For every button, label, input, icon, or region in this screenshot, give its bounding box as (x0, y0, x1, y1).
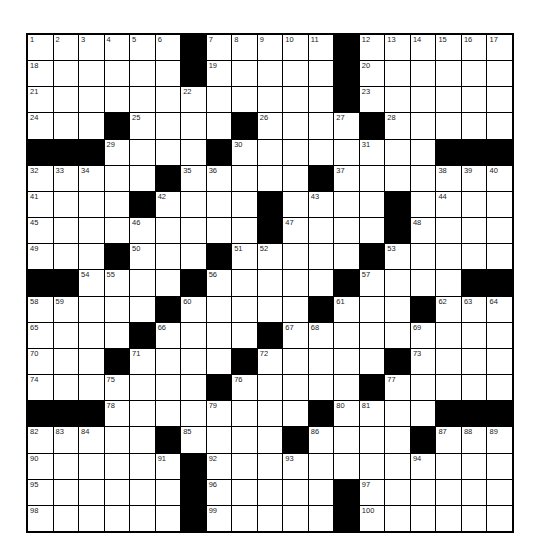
crossword-cell[interactable] (232, 297, 257, 322)
crossword-cell[interactable]: 4 (105, 35, 130, 60)
crossword-cell[interactable] (411, 480, 436, 505)
crossword-cell[interactable] (385, 401, 410, 426)
crossword-cell[interactable] (232, 61, 257, 86)
crossword-cell[interactable] (130, 427, 155, 452)
crossword-cell[interactable] (283, 61, 308, 86)
crossword-cell[interactable] (283, 113, 308, 138)
crossword-cell[interactable]: 59 (54, 297, 79, 322)
crossword-cell[interactable] (79, 61, 104, 86)
crossword-cell[interactable] (181, 218, 206, 243)
crossword-cell[interactable] (181, 140, 206, 165)
crossword-cell[interactable]: 30 (232, 140, 257, 165)
crossword-cell[interactable]: 79 (207, 401, 232, 426)
crossword-cell[interactable] (130, 506, 155, 531)
crossword-cell[interactable] (207, 113, 232, 138)
crossword-cell[interactable] (207, 323, 232, 348)
crossword-cell[interactable] (181, 349, 206, 374)
crossword-cell[interactable] (105, 427, 130, 452)
crossword-cell[interactable]: 55 (105, 270, 130, 295)
crossword-cell[interactable] (436, 375, 461, 400)
crossword-cell[interactable]: 81 (360, 401, 385, 426)
crossword-cell[interactable] (360, 218, 385, 243)
crossword-cell[interactable] (105, 454, 130, 479)
crossword-cell[interactable]: 22 (181, 87, 206, 112)
crossword-cell[interactable]: 40 (487, 166, 512, 191)
crossword-cell[interactable] (156, 113, 181, 138)
crossword-cell[interactable]: 56 (207, 270, 232, 295)
crossword-cell[interactable]: 9 (258, 35, 283, 60)
crossword-cell[interactable] (385, 270, 410, 295)
crossword-cell[interactable] (232, 427, 257, 452)
crossword-cell[interactable] (105, 166, 130, 191)
crossword-cell[interactable]: 92 (207, 454, 232, 479)
crossword-cell[interactable] (462, 375, 487, 400)
crossword-cell[interactable]: 60 (181, 297, 206, 322)
crossword-cell[interactable] (385, 87, 410, 112)
crossword-cell[interactable] (105, 192, 130, 217)
crossword-cell[interactable]: 97 (360, 480, 385, 505)
crossword-cell[interactable] (130, 454, 155, 479)
crossword-cell[interactable] (130, 297, 155, 322)
crossword-cell[interactable]: 78 (105, 401, 130, 426)
crossword-cell[interactable] (385, 323, 410, 348)
crossword-cell[interactable] (436, 87, 461, 112)
crossword-cell[interactable]: 50 (130, 244, 155, 269)
crossword-cell[interactable] (283, 166, 308, 191)
crossword-cell[interactable] (105, 87, 130, 112)
crossword-cell[interactable]: 33 (54, 166, 79, 191)
crossword-cell[interactable] (258, 140, 283, 165)
crossword-cell[interactable] (232, 87, 257, 112)
crossword-cell[interactable] (79, 244, 104, 269)
crossword-cell[interactable] (232, 480, 257, 505)
crossword-cell[interactable]: 46 (130, 218, 155, 243)
crossword-cell[interactable] (283, 506, 308, 531)
crossword-cell[interactable]: 11 (309, 35, 334, 60)
crossword-cell[interactable] (436, 323, 461, 348)
crossword-cell[interactable] (54, 375, 79, 400)
crossword-cell[interactable] (462, 323, 487, 348)
crossword-cell[interactable] (181, 323, 206, 348)
crossword-cell[interactable] (309, 113, 334, 138)
crossword-cell[interactable]: 47 (283, 218, 308, 243)
crossword-cell[interactable] (334, 375, 359, 400)
crossword-cell[interactable]: 61 (334, 297, 359, 322)
crossword-cell[interactable] (436, 349, 461, 374)
crossword-cell[interactable] (258, 480, 283, 505)
crossword-cell[interactable] (130, 166, 155, 191)
crossword-cell[interactable]: 31 (360, 140, 385, 165)
crossword-cell[interactable]: 1 (28, 35, 53, 60)
crossword-cell[interactable] (411, 401, 436, 426)
crossword-cell[interactable] (232, 218, 257, 243)
crossword-cell[interactable] (385, 140, 410, 165)
crossword-cell[interactable]: 20 (360, 61, 385, 86)
crossword-cell[interactable] (436, 113, 461, 138)
crossword-cell[interactable]: 19 (207, 61, 232, 86)
crossword-cell[interactable]: 94 (411, 454, 436, 479)
crossword-cell[interactable] (105, 297, 130, 322)
crossword-cell[interactable]: 82 (28, 427, 53, 452)
crossword-cell[interactable] (487, 480, 512, 505)
crossword-cell[interactable] (54, 244, 79, 269)
crossword-cell[interactable] (309, 87, 334, 112)
crossword-cell[interactable] (79, 87, 104, 112)
crossword-cell[interactable] (130, 87, 155, 112)
crossword-cell[interactable]: 98 (28, 506, 53, 531)
crossword-cell[interactable] (385, 166, 410, 191)
crossword-cell[interactable] (130, 270, 155, 295)
crossword-cell[interactable] (156, 87, 181, 112)
crossword-cell[interactable]: 57 (360, 270, 385, 295)
crossword-cell[interactable] (436, 270, 461, 295)
crossword-cell[interactable] (487, 323, 512, 348)
crossword-cell[interactable] (79, 375, 104, 400)
crossword-cell[interactable]: 8 (232, 35, 257, 60)
crossword-cell[interactable] (156, 480, 181, 505)
crossword-cell[interactable] (105, 323, 130, 348)
crossword-cell[interactable]: 100 (360, 506, 385, 531)
crossword-cell[interactable] (156, 506, 181, 531)
crossword-cell[interactable] (207, 192, 232, 217)
crossword-cell[interactable] (181, 375, 206, 400)
crossword-cell[interactable] (54, 349, 79, 374)
crossword-cell[interactable] (462, 349, 487, 374)
crossword-cell[interactable] (385, 480, 410, 505)
crossword-cell[interactable] (283, 401, 308, 426)
